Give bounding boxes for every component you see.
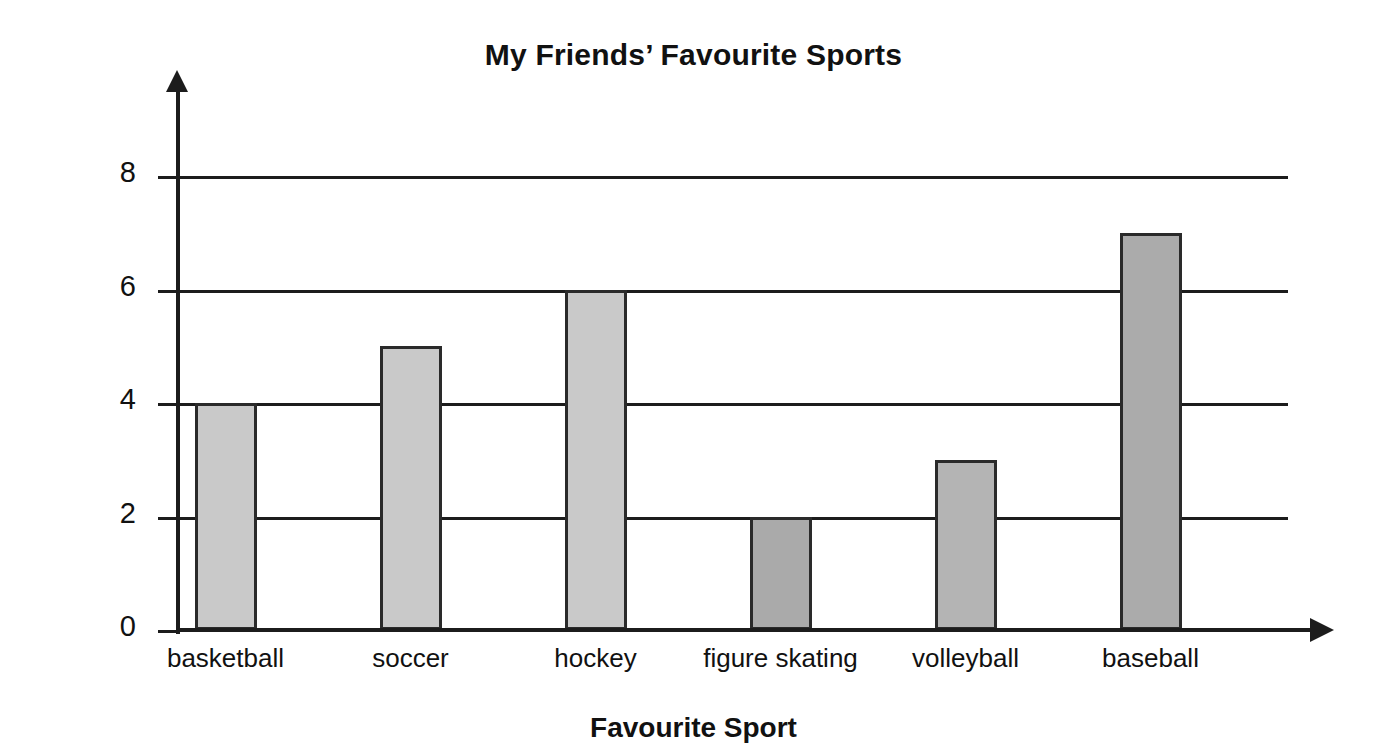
y-tick-label: 0 <box>76 612 136 641</box>
y-tick-mark <box>158 290 176 293</box>
bar <box>195 403 257 630</box>
y-tick-mark <box>158 517 176 520</box>
y-tick-label: 2 <box>76 499 136 528</box>
bar <box>750 517 812 631</box>
bar <box>1120 233 1182 630</box>
plot-area: 02468 <box>178 176 1288 630</box>
arrow-right-icon <box>1310 618 1334 642</box>
x-axis-title: Favourite Sport <box>0 712 1387 744</box>
x-axis-line <box>176 628 1316 632</box>
x-tick-label: baseball <box>1041 644 1261 673</box>
bar <box>380 346 442 630</box>
y-tick-mark <box>158 176 176 179</box>
chart-title: My Friends’ Favourite Sports <box>0 38 1387 72</box>
bar <box>565 290 627 631</box>
arrow-up-icon <box>166 70 188 92</box>
y-tick-label: 4 <box>76 385 136 414</box>
y-axis-line <box>176 86 180 634</box>
bar <box>935 460 997 630</box>
y-tick-mark <box>158 403 176 406</box>
y-tick-label: 8 <box>76 158 136 187</box>
y-tick-label: 6 <box>76 272 136 301</box>
y-tick-mark <box>158 630 176 633</box>
bar-chart: My Friends’ Favourite Sports Number of F… <box>0 0 1387 752</box>
gridline <box>178 176 1288 179</box>
